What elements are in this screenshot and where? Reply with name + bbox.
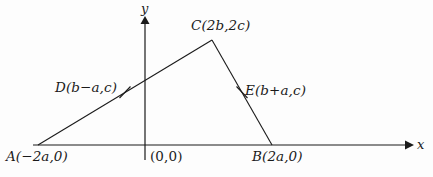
x-axis-label: x [417, 138, 424, 151]
point-label-a: A(−2a,0) [6, 150, 68, 164]
coordinate-geometry-figure: y x (0,0) A(−2a,0) B(2a,0) C(2b,2c) D(b−… [0, 0, 433, 177]
origin-label: (0,0) [150, 150, 183, 164]
y-axis-arrowhead [141, 16, 150, 24]
point-label-c: C(2b,2c) [191, 19, 250, 33]
x-axis-arrowhead [405, 141, 414, 150]
point-label-e: E(b+a,c) [245, 84, 306, 98]
point-label-b: B(2a,0) [252, 150, 303, 164]
y-axis-label: y [141, 2, 148, 15]
point-label-d: D(b−a,c) [55, 81, 117, 95]
tick-mark-d [120, 87, 131, 99]
